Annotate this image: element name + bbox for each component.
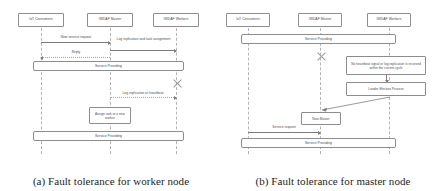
note-label-new-master-b: New Master — [312, 117, 329, 121]
note-no-heartbeat-b: No heartbeat signal or log replication i… — [346, 56, 426, 75]
arrowhead-icon — [174, 96, 177, 100]
message-label-log-replication-or-heartbeat-a: Log replication or heartbeat — [112, 92, 174, 96]
activation-label-service-providing-top-b: Service Providing — [305, 37, 332, 41]
message-reply-a — [41, 57, 110, 58]
arrowhead-icon — [40, 56, 43, 60]
activation-service-providing-top-b: Service Providing — [241, 34, 396, 44]
note-label-no-heartbeat-b: No heartbeat signal or log replication i… — [349, 62, 424, 70]
message-label-log-replication-task-assignment-a: Log replication and task assignment — [115, 38, 172, 42]
arrowhead-icon — [174, 49, 177, 53]
connector-leader-election-to-new-master-b — [306, 96, 392, 112]
activation-service-providing-bottom-a: Service Providing — [33, 131, 184, 141]
actor-box-workers-a: IWDAF Workers — [153, 13, 199, 27]
note-label-assign-task-new-worker-a: Assign task to a new worker — [92, 112, 129, 120]
note-leader-election-process-b: Leader Election Process — [346, 82, 426, 96]
actor-label-master-a: IWDAF Master — [99, 18, 122, 22]
message-service-request-b — [248, 132, 320, 133]
message-log-replication-or-heartbeat-a — [110, 97, 176, 98]
lifeline-master-b — [320, 28, 321, 154]
actor-box-iot-consumers-b: IoT Consumers — [226, 13, 270, 27]
message-label-new-service-request-a: New service request — [46, 36, 106, 40]
message-new-service-request-a — [41, 42, 110, 43]
figure-a-fault-tolerance-worker: IoT Consumers IWDAF Master IWDAF Workers… — [0, 0, 222, 191]
connector-note-to-leader-election-b — [386, 75, 387, 82]
failure-x-mark-master-b — [315, 51, 326, 62]
activation-service-providing-bottom-b: Service Providing — [241, 138, 396, 148]
failure-x-mark-workers-a — [171, 78, 182, 89]
figure-pair: IoT Consumers IWDAF Master IWDAF Workers… — [0, 0, 444, 191]
sequence-diagram-b: IoT Consumers IWDAF Master IWDAF Workers… — [222, 0, 444, 158]
actor-label-workers-b: IWDAF Workers — [377, 18, 402, 22]
actor-label-iot-consumers-b: IoT Consumers — [236, 18, 260, 22]
figure-b-fault-tolerance-master: IoT Consumers IWDAF Master IWDAF Workers… — [222, 0, 444, 191]
arrowhead-icon — [108, 41, 111, 45]
note-new-master-b: New Master — [301, 112, 341, 125]
activation-label-service-providing-top-a: Service Providing — [95, 64, 122, 68]
note-label-leader-election-process-b: Leader Election Process — [368, 87, 403, 91]
actor-box-workers-b: IWDAF Workers — [367, 13, 411, 27]
actor-box-master-a: IWDAF Master — [87, 13, 133, 27]
note-assign-task-new-worker-a: Assign task to a new worker — [89, 107, 131, 124]
activation-service-providing-top-a: Service Providing — [33, 61, 184, 71]
message-label-service-request-b: Service request — [254, 126, 314, 130]
actor-label-iot-consumers-a: IoT Consumers — [29, 18, 53, 22]
actor-box-master-b: IWDAF Master — [298, 13, 342, 27]
actor-label-workers-a: IWDAF Workers — [164, 18, 189, 22]
activation-label-service-providing-bottom-b: Service Providing — [305, 141, 332, 145]
actor-box-iot-consumers-a: IoT Consumers — [18, 13, 64, 27]
activation-label-service-providing-bottom-a: Service Providing — [95, 134, 122, 138]
message-log-replication-task-assignment-a — [110, 50, 176, 51]
caption-figure-a: (a) Fault tolerance for worker node — [0, 175, 222, 187]
actor-label-master-b: IWDAF Master — [309, 18, 332, 22]
sequence-diagram-a: IoT Consumers IWDAF Master IWDAF Workers… — [0, 0, 222, 158]
caption-figure-b: (b) Fault tolerance for master node — [222, 175, 444, 187]
lifeline-iot-consumers-b — [248, 28, 249, 154]
message-label-reply-a: Reply — [46, 51, 106, 55]
arrowhead-icon — [318, 131, 321, 135]
